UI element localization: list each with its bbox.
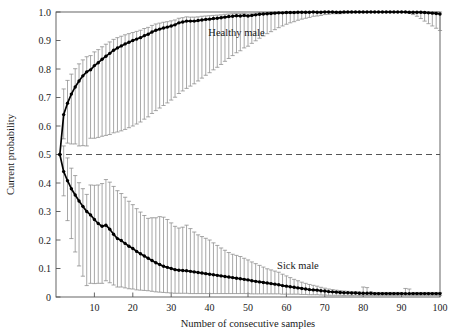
y-tick-label: 0.8 xyxy=(39,64,52,75)
chart-svg: 00.10.20.30.40.50.60.70.80.91.0102030405… xyxy=(0,0,468,335)
y-tick-label: 0.4 xyxy=(39,178,52,189)
y-tick-label: 0.5 xyxy=(39,149,52,160)
x-tick-label: 50 xyxy=(243,302,253,313)
y-axis-title: Current probability xyxy=(5,113,16,195)
series-markers-sick-male xyxy=(58,153,442,295)
x-tick-label: 100 xyxy=(433,302,448,313)
x-axis-title: Number of consecutive samples xyxy=(181,318,315,329)
x-tick-label: 60 xyxy=(281,302,291,313)
y-tick-label: 0.9 xyxy=(39,35,52,46)
figure-container: 00.10.20.30.40.50.60.70.80.91.0102030405… xyxy=(0,0,468,335)
y-tick-label: 0.3 xyxy=(39,206,52,217)
y-tick-label: 0 xyxy=(46,292,51,303)
x-tick-label: 80 xyxy=(358,302,368,313)
x-tick-label: 10 xyxy=(89,302,99,313)
y-tick-label: 0.1 xyxy=(39,263,52,274)
series-line-sick-male xyxy=(60,155,440,294)
x-tick-label: 20 xyxy=(128,302,138,313)
x-tick-label: 40 xyxy=(205,302,215,313)
x-tick-label: 90 xyxy=(397,302,407,313)
y-tick-label: 0.7 xyxy=(39,92,52,103)
y-tick-label: 1.0 xyxy=(39,7,52,18)
y-tick-label: 0.2 xyxy=(39,235,52,246)
x-tick-label: 30 xyxy=(166,302,176,313)
x-tick-label: 70 xyxy=(320,302,330,313)
annotation-sick-male: Sick male xyxy=(277,260,319,271)
errorbars-sick-male xyxy=(62,146,443,296)
annotation-healthy-male: Healthy male xyxy=(208,27,265,38)
y-tick-label: 0.6 xyxy=(39,121,52,132)
